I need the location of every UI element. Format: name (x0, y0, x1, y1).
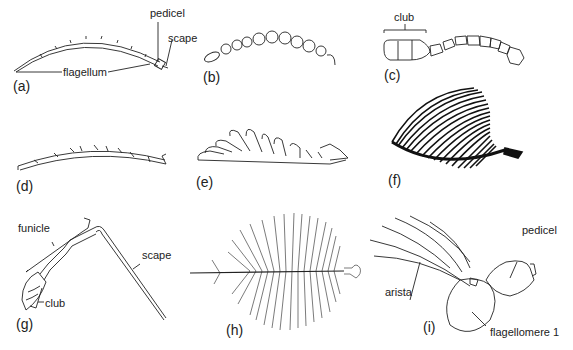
antenna-a-drawing (14, 22, 172, 72)
panel-label-f: (f) (388, 172, 401, 188)
label-a-scape: scape (168, 32, 197, 44)
panel-label-h: (h) (226, 322, 243, 338)
antenna-h-drawing (190, 213, 361, 330)
antenna-i-drawing (370, 216, 536, 331)
label-a-pedicel: pedicel (150, 7, 185, 19)
antenna-c-drawing (384, 24, 524, 65)
label-i-pedicel: pedicel (522, 224, 557, 236)
antenna-b-drawing (203, 31, 335, 65)
antennae-diagram (0, 0, 573, 350)
panel-label-e: (e) (196, 174, 213, 190)
panel-label-d: (d) (16, 178, 33, 194)
label-a-flagellum: flagellum (63, 66, 107, 78)
panel-label-i: (i) (423, 319, 435, 335)
antenna-f-drawing (392, 88, 522, 168)
panel-label-g: (g) (16, 316, 33, 332)
label-g-funicle: funicle (18, 222, 50, 234)
label-g-club: club (45, 297, 65, 309)
antenna-d-drawing (18, 145, 166, 170)
label-g-scape: scape (142, 249, 171, 261)
panel-label-c: (c) (384, 67, 400, 83)
label-i-arista: arista (385, 286, 412, 298)
label-c-club: club (394, 11, 414, 23)
antenna-e-drawing (198, 129, 348, 164)
panel-label-a: (a) (13, 78, 30, 94)
panel-label-b: (b) (203, 69, 220, 85)
label-i-flagellomere-1: flagellomere 1 (490, 326, 559, 338)
